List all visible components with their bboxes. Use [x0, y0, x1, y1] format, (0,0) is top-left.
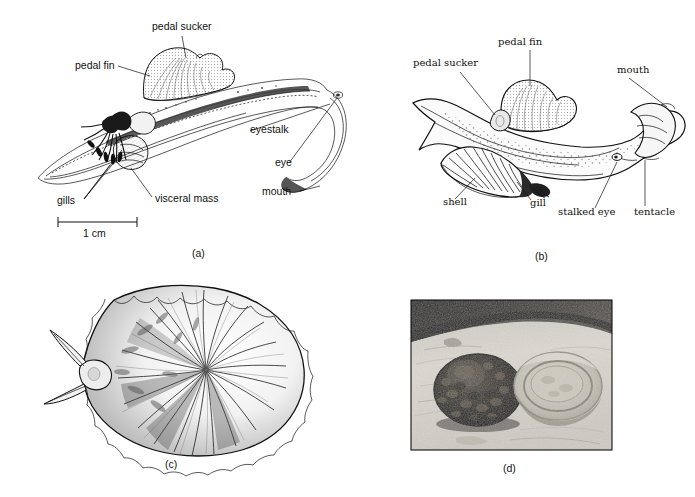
limpet-d [434, 354, 522, 432]
leader-visceral-mass [131, 168, 152, 197]
label-mouth-b: mouth [617, 64, 649, 75]
panel-c: (c) [10, 278, 340, 497]
panel-a-illustration [0, 0, 360, 270]
panel-a: pedal sucker pedal fin eyestalk eye mout… [0, 0, 360, 270]
leader-pedal-sucker-b [460, 72, 495, 115]
leader-mouth-b [629, 78, 667, 107]
label-gills-a: gills [57, 195, 75, 206]
gill-b [529, 183, 550, 198]
photo-content-d [411, 300, 612, 450]
panel-caption-a: (a) [192, 247, 205, 259]
label-tentacle-b: tentacle [634, 206, 675, 217]
panel-caption-b: (b) [535, 250, 548, 262]
panel-caption-d: (d) [503, 462, 516, 474]
panel-d: (d) [400, 290, 630, 490]
label-mouth-a: mouth [262, 186, 291, 197]
label-visceral-mass-a: visceral mass [155, 193, 219, 204]
scale-bar-label-a: 1 cm [83, 228, 106, 239]
leader-gills-3 [84, 150, 122, 199]
label-gill-b: gill [530, 197, 546, 208]
label-pedal-fin-b: pedal fin [498, 36, 542, 47]
label-stalked-eye-b: stalked eye [558, 206, 615, 217]
label-pedal-sucker-a: pedal sucker [152, 21, 212, 32]
panel-b-illustration [395, 0, 695, 270]
scale-bar-a [58, 217, 137, 227]
figure-plate: pedal sucker pedal fin eyestalk eye mout… [0, 0, 695, 497]
label-pedal-fin-a: pedal fin [75, 60, 115, 71]
panel-caption-c: (c) [165, 458, 177, 470]
label-pedal-sucker-b: pedal sucker [413, 57, 478, 68]
panel-b: pedal fin pedal sucker mouth shell gill … [395, 0, 695, 270]
label-shell-b: shell [443, 196, 467, 207]
proboscis-a [281, 90, 346, 192]
leader-pedal-fin [118, 66, 150, 76]
pedal-fin-a [143, 48, 234, 101]
label-eyestalk-a: eyestalk [250, 124, 289, 135]
label-eye-a: eye [275, 157, 292, 168]
panel-d-photograph [400, 290, 630, 490]
pedal-fin-b [501, 80, 576, 132]
